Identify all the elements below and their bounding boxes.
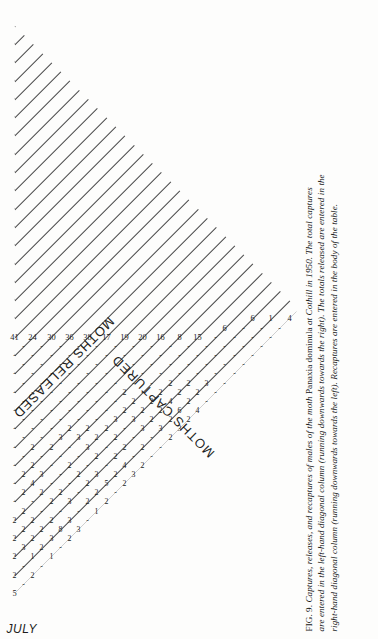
caption-run: right-hand diagonal column (running down… (328, 203, 338, 631)
caption-run: are entered in the left-hand diagonal co… (315, 174, 325, 631)
caption-line: are entered in the left-hand diagonal co… (314, 9, 326, 631)
caption-line: right-hand diagonal column (running down… (327, 9, 339, 631)
caption-run: at Cothill in 1950. The total captures (303, 187, 313, 325)
caption-run: Panaxia dominula (303, 325, 313, 394)
caption-run: FIG. 9. (303, 602, 313, 631)
figure-plate: 5-2-1-23-12-232--2324---------52-12383-2… (0, 0, 378, 639)
month-label-july: JULY (6, 621, 37, 635)
figure-page: 5-2-1-23-12-232--2324---------52-12383-2… (0, 0, 378, 639)
day-axis-labels: 5678910111213141516171819202122232425262… (8, 25, 296, 605)
caption-run: Captures, releases, and recaptures of ma… (303, 394, 313, 602)
caption-line: FIG. 9. Captures, releases, and recaptur… (302, 9, 314, 631)
figure-caption: FIG. 9. Captures, releases, and recaptur… (302, 9, 339, 631)
capture-recapture-table: 5-2-1-23-12-232--2324---------52-12383-2… (8, 25, 296, 605)
